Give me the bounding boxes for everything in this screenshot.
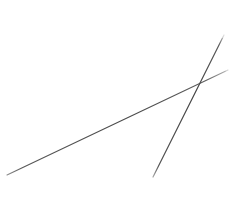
image-canvas: [0, 0, 230, 208]
steep-line-tip-halo: [221, 32, 227, 38]
canvas-background: [0, 0, 230, 208]
line-drawing: [0, 0, 230, 208]
